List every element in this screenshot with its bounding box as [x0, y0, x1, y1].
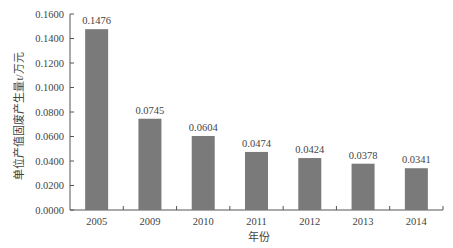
x-tick-label: 2012: [299, 216, 320, 227]
y-tick-label: 0.1000: [35, 82, 64, 93]
y-tick-label: 0.0400: [35, 156, 64, 167]
bar-value-label: 0.0474: [242, 138, 272, 149]
bar-value-label: 0.0341: [402, 154, 431, 165]
y-tick-label: 0.1200: [35, 58, 64, 69]
bar-value-label: 0.0378: [349, 150, 378, 161]
bar: [405, 168, 428, 210]
y-tick-label: 0.1600: [35, 9, 64, 20]
bar-value-label: 0.0424: [295, 144, 325, 155]
x-tick-label: 2013: [353, 216, 374, 227]
x-tick-label: 2005: [86, 216, 107, 227]
bar-chart: 0.00000.02000.04000.06000.08000.10000.12…: [0, 0, 453, 248]
bar: [85, 29, 108, 210]
bar: [138, 119, 161, 210]
y-axis: 0.00000.02000.04000.06000.08000.10000.12…: [35, 9, 74, 216]
x-axis-title: 年份: [248, 230, 270, 243]
bar: [298, 158, 321, 210]
x-tick-label: 2014: [406, 216, 428, 227]
bar: [352, 164, 375, 210]
y-tick-label: 0.0600: [35, 131, 64, 142]
x-tick-label: 2011: [246, 216, 267, 227]
bar-value-label: 0.0604: [189, 122, 219, 133]
x-tick-label: 2010: [193, 216, 214, 227]
bar: [192, 136, 215, 210]
y-tick-label: 0.1400: [35, 33, 64, 44]
x-tick-label: 2009: [139, 216, 160, 227]
bar-value-label: 0.1476: [82, 15, 111, 26]
bar-value-label: 0.0745: [135, 105, 164, 116]
y-tick-label: 0.0000: [35, 205, 64, 216]
y-tick-label: 0.0800: [35, 107, 64, 118]
bars: 0.14760.07450.06040.04740.04240.03780.03…: [82, 15, 431, 210]
y-tick-label: 0.0200: [35, 180, 64, 191]
y-axis-title: 单位产值固废产生量t/万元: [12, 52, 25, 179]
bar: [245, 152, 268, 210]
